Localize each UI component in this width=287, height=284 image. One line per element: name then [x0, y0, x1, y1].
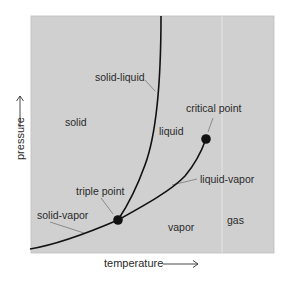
solid-vapor-label: solid-vapor — [37, 209, 89, 221]
critical-point-marker — [201, 134, 211, 144]
solid-liquid-label: solid-liquid — [95, 71, 145, 83]
liquid-region-label: liquid — [159, 125, 184, 137]
x-axis-label: temperature — [104, 257, 163, 269]
x-axis-arrow-icon — [163, 261, 198, 268]
liquid-vapor-label: liquid-vapor — [200, 173, 255, 185]
vapor-region-label: vapor — [168, 221, 195, 233]
phase-diagram: solid-liquid solid liquid critical point… — [0, 0, 287, 284]
critical-point-label: critical point — [186, 102, 242, 114]
gas-region-label: gas — [227, 214, 244, 226]
solid-region-label: solid — [65, 116, 87, 128]
triple-point-label: triple point — [76, 185, 125, 197]
triple-point-marker — [113, 215, 123, 225]
